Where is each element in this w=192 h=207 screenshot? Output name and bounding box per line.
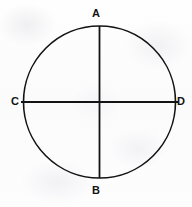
point-label-a: A [0,8,192,19]
circle-diagram-figure: A B C D [0,0,192,207]
diagram-canvas [0,0,192,207]
point-label-b: B [0,185,192,196]
point-label-c: C [11,96,19,107]
point-label-d: D [177,96,185,107]
